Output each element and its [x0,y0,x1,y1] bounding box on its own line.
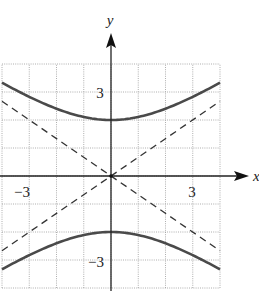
y-tick-label-neg3: −3 [88,254,104,270]
x-tick-label-neg3: −3 [14,184,30,200]
origin-dot [109,174,113,178]
y-tick-label-3: 3 [96,85,104,101]
x-tick-label-3: 3 [188,184,196,200]
hyperbola-plot: y x −3 3 3 −3 [0,0,259,291]
y-axis-label: y [105,12,114,28]
x-axis-label: x [252,168,259,184]
